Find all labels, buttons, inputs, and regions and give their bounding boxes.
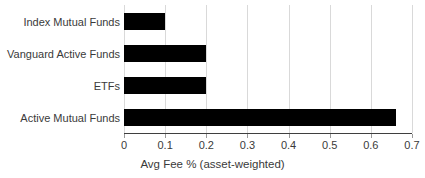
tick-label: 0.4 <box>269 139 309 151</box>
plot-area <box>124 5 412 133</box>
bar <box>124 45 206 62</box>
tick-mark-0 <box>124 134 125 138</box>
tick-mark-0.4 <box>289 134 290 138</box>
tick-label: 0.6 <box>351 139 391 151</box>
tick-mark-0.3 <box>247 134 248 138</box>
bar-chart: Index Mutual FundsVanguard Active FundsE… <box>0 0 425 178</box>
gridline-0.7 <box>412 5 413 133</box>
bars <box>124 5 412 133</box>
tick-mark-0.6 <box>371 134 372 138</box>
tick-label: 0.1 <box>145 139 185 151</box>
category-label: Index Mutual Funds <box>0 16 120 28</box>
tick-label: 0 <box>104 139 144 151</box>
tick-mark-0.7 <box>412 134 413 138</box>
tick-mark-0.5 <box>330 134 331 138</box>
x-axis-line <box>124 133 412 134</box>
tick-label: 0.7 <box>392 139 425 151</box>
bar <box>124 109 396 126</box>
tick-label: 0.2 <box>186 139 226 151</box>
tick-mark-0.1 <box>165 134 166 138</box>
category-label: ETFs <box>0 80 120 92</box>
bar <box>124 13 165 30</box>
category-label: Vanguard Active Funds <box>0 48 120 60</box>
tick-label: 0.5 <box>310 139 350 151</box>
category-label: Active Mutual Funds <box>0 112 120 124</box>
tick-label: 0.3 <box>227 139 267 151</box>
tick-mark-0.2 <box>206 134 207 138</box>
bar <box>124 77 206 94</box>
x-axis-title: Avg Fee % (asset-weighted) <box>0 158 425 171</box>
